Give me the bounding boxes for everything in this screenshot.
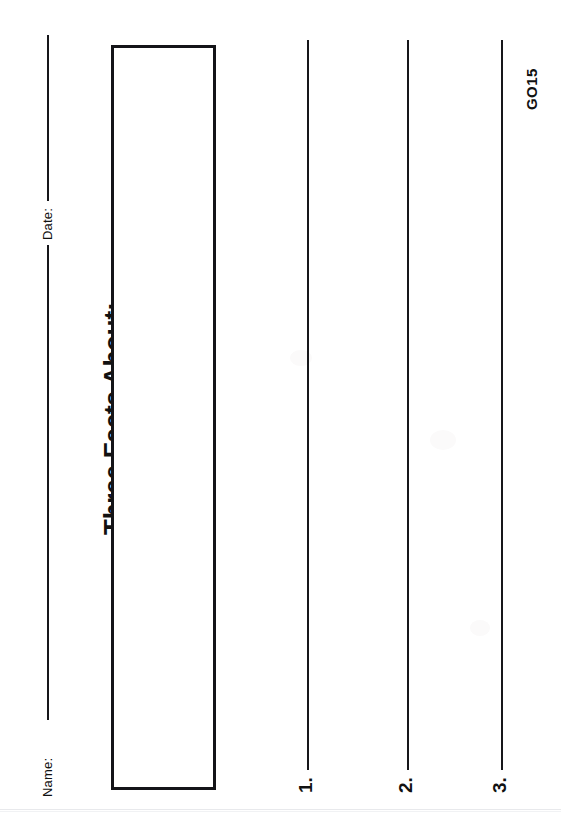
fact-line-3[interactable] bbox=[501, 40, 503, 770]
name-write-line[interactable] bbox=[47, 245, 49, 720]
resource-code: GO15 bbox=[524, 68, 539, 110]
scan-tint bbox=[430, 430, 456, 450]
scan-bottom-edge bbox=[0, 809, 561, 810]
scan-bottom-edge-soft bbox=[0, 811, 561, 812]
fact-number-2: 2. bbox=[396, 777, 415, 793]
date-label: Date: bbox=[41, 208, 54, 240]
fact-line-2[interactable] bbox=[407, 40, 409, 770]
fact-number-1: 1. bbox=[296, 777, 315, 793]
fact-line-1[interactable] bbox=[307, 40, 309, 770]
scan-tint bbox=[470, 620, 490, 636]
worksheet-page: Date: Name: Three Facts About: 1. 2. 3. … bbox=[0, 0, 561, 825]
fact-number-3: 3. bbox=[490, 777, 509, 793]
drawing-box[interactable] bbox=[111, 45, 216, 790]
name-label: Name: bbox=[41, 758, 54, 797]
date-write-line[interactable] bbox=[47, 35, 49, 201]
